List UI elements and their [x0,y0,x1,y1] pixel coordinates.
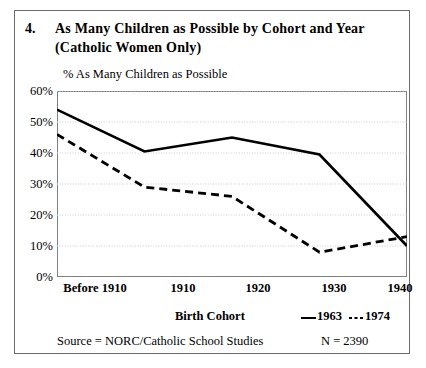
legend-label-1963: 1963 [317,309,342,324]
sample-size-note: N = 2390 [321,333,368,349]
x-axis-title: Birth Cohort [175,309,245,324]
y-tick-label: 10% [17,240,53,253]
line-series-1963 [57,110,407,246]
figure-number: 4. [25,19,55,38]
line-series-1974 [57,134,407,252]
source-note: Source = NORC/Catholic School Studies [57,333,263,349]
page-title: As Many Children as Possible by Cohort a… [55,19,371,57]
y-tick-label: 20% [17,209,53,222]
legend: 1963 1974 [301,309,390,324]
plot-area [57,91,407,277]
x-tick-label: 1930 [322,281,347,295]
caption-block: Birth Cohort 1963 19 [25,307,401,353]
figure-title-block: 4. As Many Children as Possible by Cohor… [25,19,401,57]
x-axis-tick-labels: Before 1910 1910 1920 1930 1940 [57,281,407,299]
legend-label-1974: 1974 [365,309,390,324]
x-tick-label: 1920 [246,281,271,295]
dashed-line-icon [349,313,364,323]
x-tick-label: 1940 [388,281,413,295]
figure-container: 4. As Many Children as Possible by Cohor… [14,10,410,354]
legend-dashed-line-icon [349,312,364,322]
y-axis-tick-labels: 60% 50% 40% 30% 20% 10% 0% [15,91,53,277]
x-tick-label: 1910 [171,281,196,295]
y-tick-label: 0% [17,271,53,284]
chart-svg [57,91,407,277]
legend-entry-1974: 1974 [349,309,390,324]
y-tick-label: 60% [17,85,53,98]
y-axis-title: % As Many Children as Possible [63,67,227,82]
y-tick-label: 30% [17,178,53,191]
gridlines [57,91,407,246]
y-tick-label: 50% [17,116,53,129]
solid-line-icon [301,313,316,323]
x-tick-label: Before 1910 [63,281,126,295]
caption-row-legend: Birth Cohort 1963 19 [25,307,401,329]
legend-entry-1963: 1963 [301,309,342,324]
legend-solid-line-icon [301,312,316,322]
caption-row-source: Source = NORC/Catholic School Studies N … [25,333,401,353]
y-tick-label: 40% [17,147,53,160]
